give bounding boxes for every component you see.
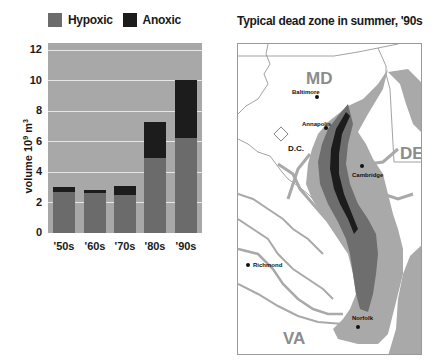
legend-item-anoxic: Anoxic xyxy=(123,13,181,27)
bar-90s-anoxic xyxy=(175,80,197,138)
y-tick-0: 0 xyxy=(22,226,42,238)
anoxic-swatch xyxy=(123,13,137,27)
city-label-richmond: Richmond xyxy=(253,262,283,268)
bar-60s xyxy=(84,190,106,233)
y-tick-2: 2 xyxy=(22,196,42,208)
y-tick-8: 8 xyxy=(22,104,42,116)
x-tick-60s: '60s xyxy=(80,240,110,252)
x-tick-70s: '70s xyxy=(110,240,140,252)
river-3 xyxy=(238,249,343,314)
bar-80s xyxy=(144,122,166,233)
city-dot-richmond xyxy=(246,263,250,267)
city-dot-cambridge xyxy=(360,164,364,168)
dc-boundary xyxy=(274,127,288,141)
city-label-norfolk: Norfolk xyxy=(352,315,374,321)
legend-item-hypoxic: Hypoxic xyxy=(48,13,113,27)
gridline-12 xyxy=(48,50,202,51)
y-axis-label: volume 109 m3 xyxy=(22,116,35,196)
y-tick-4: 4 xyxy=(22,165,42,177)
bar-80s-hypoxic xyxy=(144,158,166,233)
x-tick-80s: '80s xyxy=(140,240,170,252)
patuxent-river xyxy=(288,154,310,199)
bar-70s xyxy=(114,186,136,233)
city-dot-norfolk xyxy=(356,325,360,329)
bar-50s xyxy=(53,187,75,233)
city-label-cambridge: Cambridge xyxy=(352,172,384,178)
plot-area xyxy=(48,43,202,233)
city-label-dc: D.C. xyxy=(288,144,304,153)
bar-90s-hypoxic xyxy=(175,138,197,233)
y-tick-6: 6 xyxy=(22,135,42,147)
city-label-baltimore: Baltimore xyxy=(292,89,320,95)
map-title: Typical dead zone in summer, '90s xyxy=(237,14,422,28)
bar-50s-hypoxic xyxy=(53,192,75,233)
city-dot-baltimore xyxy=(315,95,319,99)
x-tick-90s: '90s xyxy=(171,240,201,252)
map-graphic: MD DE VA Baltimore Annapolis D.C. Cambri… xyxy=(238,44,422,355)
hypoxic-swatch xyxy=(48,13,62,27)
x-tick-50s: '50s xyxy=(49,240,79,252)
delaware-bay xyxy=(388,69,422,134)
bar-70s-anoxic xyxy=(114,186,136,195)
bar-70s-hypoxic xyxy=(114,195,136,233)
bar-60s-hypoxic xyxy=(84,193,106,233)
bar-90s xyxy=(175,80,197,233)
y-tick-10: 10 xyxy=(22,74,42,86)
city-label-annapolis: Annapolis xyxy=(302,121,332,127)
state-label-va: VA xyxy=(283,329,305,348)
y-tick-12: 12 xyxy=(22,43,42,55)
legend-label-hypoxic: Hypoxic xyxy=(68,13,113,27)
chesapeake-bay-map: MD DE VA Baltimore Annapolis D.C. Cambri… xyxy=(237,43,422,355)
western-border xyxy=(238,44,270,114)
bar-80s-anoxic xyxy=(144,122,166,158)
chart-legend: Hypoxic Anoxic xyxy=(48,13,191,27)
legend-label-anoxic: Anoxic xyxy=(143,13,181,27)
state-label-md: MD xyxy=(306,69,332,88)
md-pa-border xyxy=(238,44,398,56)
state-label-de: DE xyxy=(400,144,422,163)
